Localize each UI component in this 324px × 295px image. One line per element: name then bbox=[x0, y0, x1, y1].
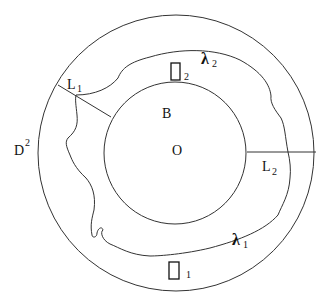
label-o: O bbox=[172, 143, 182, 158]
annulus-diagram: L 1 L 2 λ 2 λ 1 2 1 D 2 B O bbox=[0, 0, 324, 295]
svg-text:2: 2 bbox=[25, 137, 30, 148]
label-l1: L 1 bbox=[67, 77, 82, 94]
box-2-icon bbox=[171, 63, 180, 80]
svg-text:L: L bbox=[262, 159, 271, 174]
svg-text:1: 1 bbox=[243, 239, 248, 250]
svg-text:λ: λ bbox=[232, 231, 240, 248]
svg-text:D: D bbox=[14, 143, 24, 158]
label-lambda-1: λ 1 bbox=[232, 231, 248, 250]
label-box-1: 1 bbox=[169, 262, 191, 280]
svg-text:1: 1 bbox=[186, 269, 191, 280]
svg-text:2: 2 bbox=[272, 166, 277, 177]
svg-text:2: 2 bbox=[184, 71, 189, 82]
label-d2: D 2 bbox=[14, 137, 30, 158]
label-l2: L 2 bbox=[262, 159, 277, 177]
box-1-icon bbox=[169, 262, 179, 279]
svg-text:λ: λ bbox=[201, 50, 209, 67]
svg-text:L: L bbox=[67, 77, 76, 92]
label-box-2: 2 bbox=[171, 63, 189, 82]
label-lambda-2: λ 2 bbox=[201, 50, 217, 69]
svg-text:1: 1 bbox=[77, 83, 82, 94]
label-b: B bbox=[162, 106, 171, 121]
svg-text:2: 2 bbox=[212, 58, 217, 69]
